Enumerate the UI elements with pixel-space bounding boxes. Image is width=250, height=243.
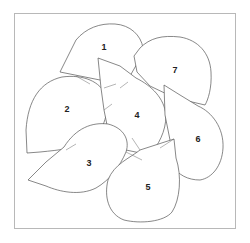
shape-label-6: 6: [195, 134, 200, 144]
shape-label-3: 3: [86, 158, 91, 168]
shape-label-1: 1: [101, 42, 106, 52]
shape-label-7: 7: [172, 65, 177, 75]
shape-label-5: 5: [145, 182, 150, 192]
shapes-drawing: [0, 0, 250, 243]
shape-label-4: 4: [134, 110, 139, 120]
shape-label-2: 2: [64, 104, 69, 114]
